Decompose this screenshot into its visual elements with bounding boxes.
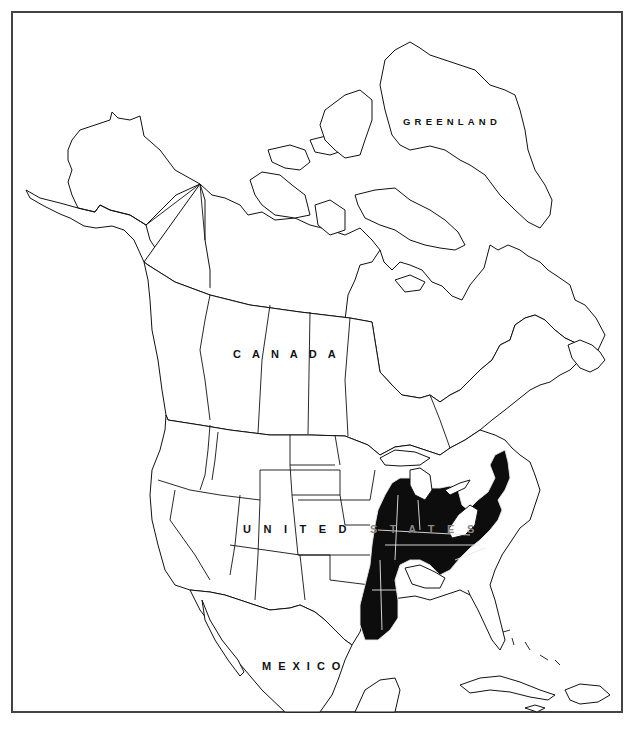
label-canada: CANADA <box>233 348 347 360</box>
yucatan <box>355 678 400 712</box>
arctic-island <box>268 145 310 170</box>
label-greenland: GREENLAND <box>403 116 501 127</box>
hispaniola <box>565 684 610 704</box>
label-mexico: MEXICO <box>262 660 347 672</box>
jamaica <box>525 705 545 712</box>
north-america-map <box>0 0 631 744</box>
arctic-island <box>315 200 345 235</box>
label-states: STATES <box>370 523 487 535</box>
cuba <box>460 676 555 700</box>
label-united: UNITED <box>243 523 359 535</box>
